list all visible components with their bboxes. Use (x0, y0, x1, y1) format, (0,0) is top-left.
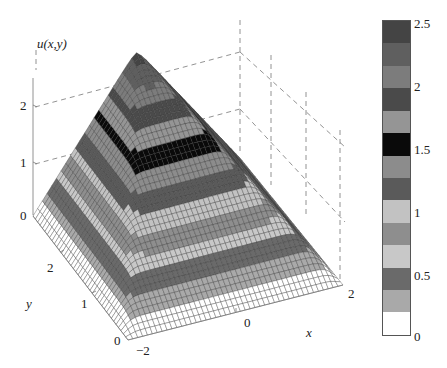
axes-frame (33, 78, 37, 217)
colorbar-band (383, 178, 410, 200)
colorbar-tick-0: 0 (414, 330, 421, 343)
colorbar-tick-0.5: 0.5 (414, 269, 430, 282)
colorbar-tick-1.5: 1.5 (414, 143, 430, 156)
colorbar-band (383, 223, 410, 245)
y-axis-label: y (26, 297, 32, 310)
z-axis-label: u(x,y) (37, 37, 67, 50)
surface-plot (0, 0, 447, 368)
colorbar-band (383, 66, 410, 88)
colorbar-tick-2: 2 (414, 80, 421, 93)
colorbar-band (383, 21, 410, 43)
colorbar-band (383, 312, 410, 334)
y-tick-0: 0 (114, 334, 121, 347)
colorbar-band (383, 111, 410, 133)
colorbar-band (383, 290, 410, 312)
z-tick-1: 1 (20, 156, 27, 169)
x-tick-2: 2 (348, 287, 355, 300)
z-tick-0: 0 (20, 209, 27, 222)
colorbar-band (383, 245, 410, 267)
colorbar-band (383, 43, 410, 65)
colorbar-tick-2.5: 2.5 (414, 17, 430, 30)
x-tick-0: 0 (244, 316, 251, 329)
x-tick-neg2: −2 (136, 344, 150, 357)
colorbar-band (383, 268, 410, 290)
y-tick-1: 1 (81, 297, 88, 310)
y-tick-2: 2 (47, 261, 54, 274)
z-tick-2: 2 (20, 99, 27, 112)
colorbar-tick-1: 1 (414, 206, 421, 219)
colorbar-band (383, 156, 410, 178)
colorbar-band (383, 133, 410, 155)
colorbar (382, 20, 411, 336)
colorbar-band (383, 200, 410, 222)
colorbar-band (383, 88, 410, 110)
x-axis-label: x (306, 326, 312, 339)
